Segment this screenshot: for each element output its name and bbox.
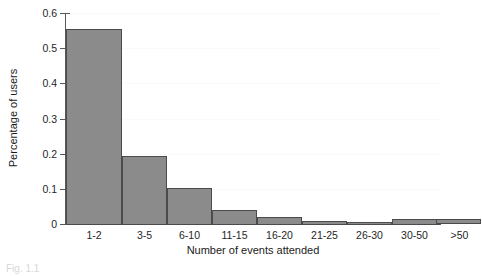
x-tick-label-3-5: 3-5 xyxy=(122,230,167,241)
x-axis-title: Number of events attended xyxy=(66,244,440,256)
bars-layer xyxy=(66,13,440,225)
y-axis-title: Percentage of users xyxy=(7,48,19,188)
bar-1-2[interactable] xyxy=(66,29,122,225)
bar-11-15[interactable] xyxy=(212,210,257,225)
x-tick-label-21-25: 21-25 xyxy=(302,230,347,241)
x-tick-label-gt-50: >50 xyxy=(437,230,482,241)
figure-caption: Fig. 1.1 xyxy=(6,264,306,274)
bar-16-20[interactable] xyxy=(257,217,302,225)
bar-30-50[interactable] xyxy=(392,219,437,225)
y-tick-label-0: 0 xyxy=(0,219,57,230)
x-tick-label-16-20: 16-20 xyxy=(257,230,302,241)
bar-3-5[interactable] xyxy=(122,156,167,225)
bar-chart: 0.6 0.5 0.4 0.3 0.2 0.1 0 1-2 3-5 6-10 1… xyxy=(0,0,453,258)
x-tick-label-30-50: 30-50 xyxy=(392,230,437,241)
x-tick-label-6-10: 6-10 xyxy=(167,230,212,241)
x-tick-label-26-30: 26-30 xyxy=(347,230,392,241)
bar-21-25[interactable] xyxy=(302,221,347,225)
bar-6-10[interactable] xyxy=(167,188,212,225)
x-tick-label-1-2: 1-2 xyxy=(66,230,122,241)
bar-26-30[interactable] xyxy=(347,222,392,225)
bar-gt-50-extension[interactable] xyxy=(437,219,481,224)
x-tick-label-11-15: 11-15 xyxy=(212,230,257,241)
y-tick-label-0.6: 0.6 xyxy=(0,8,57,19)
